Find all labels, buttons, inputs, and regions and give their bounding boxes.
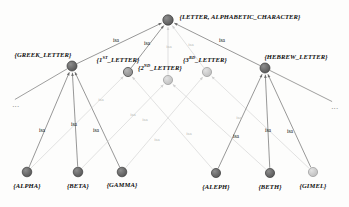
edge-label-isa: isa [130, 112, 136, 117]
concept-node[interactable] [163, 15, 173, 25]
edge-label-isa: isa [98, 97, 104, 102]
concept-node[interactable] [163, 75, 172, 84]
concept-node[interactable] [202, 67, 211, 76]
isa-edge [75, 72, 120, 167]
concept-node[interactable] [73, 167, 83, 177]
edge-label-isa: isa [265, 128, 271, 134]
concept-node[interactable] [67, 61, 77, 71]
isa-edge [125, 77, 202, 168]
edge-label-isa: isa [142, 117, 148, 122]
node-label: {ALEPH} [202, 184, 229, 191]
graph-edges-layer [0, 0, 349, 207]
diagram-canvas: {LETTER, ALPHABETIC_CHARACTER}{GREEK_LET… [0, 0, 349, 207]
nodes [22, 15, 317, 178]
edge-label-isa: isa [93, 128, 99, 134]
isa-edge [212, 76, 310, 168]
isa-edge [173, 84, 266, 169]
isa-edge [218, 74, 262, 168]
edge-label-isa: isa [154, 137, 160, 142]
concept-node[interactable] [117, 167, 127, 177]
edges [15, 23, 332, 169]
concept-node[interactable] [265, 168, 274, 177]
node-label: {HEBREW_LETTER} [264, 54, 327, 61]
stub-edge [270, 70, 332, 101]
concept-node[interactable] [22, 167, 32, 177]
isa-edge [268, 74, 311, 167]
edge-label-isa: isa [166, 44, 172, 49]
concept-node[interactable] [211, 168, 220, 177]
node-label: {LETTER, ALPHABETIC_CHARACTER} [180, 14, 301, 21]
node-label: {1ST_LETTER} [97, 57, 140, 64]
node-label: {ALPHA} [13, 183, 40, 190]
node-label: {BETA} [67, 183, 89, 190]
edge-label-isa: isa [71, 122, 77, 128]
concept-node[interactable] [123, 67, 132, 76]
node-label: {GREEK_LETTER} [15, 52, 72, 59]
concept-node[interactable] [260, 63, 270, 73]
node-label: {GIMEL} [300, 183, 327, 190]
edge-label-isa: isa [219, 38, 225, 44]
edge-label-isa: isa [39, 128, 45, 134]
edge-label-isa: isa [233, 134, 239, 140]
isa-edge [265, 75, 269, 168]
edge-label-isa: isa [188, 42, 194, 47]
isa-edge [72, 73, 77, 167]
edge-label-isa: isa [287, 129, 293, 135]
edge-label-isa: isa [236, 115, 242, 120]
edge-label-isa: isa [186, 131, 192, 136]
concept-node[interactable] [308, 167, 317, 176]
isa-edge [29, 72, 69, 167]
ellipsis-marker: ... [331, 104, 338, 111]
node-label: {2ND_LETTER} [138, 65, 182, 72]
ellipsis-marker: ... [12, 102, 19, 109]
node-label: {3RD_LETTER} [183, 57, 227, 64]
node-label: {GAMMA} [107, 182, 138, 189]
edge-label-isa: isa [144, 41, 150, 47]
node-label: {BETH} [258, 184, 281, 191]
isa-edge [132, 77, 212, 169]
edge-label-isa: isa [113, 38, 119, 44]
